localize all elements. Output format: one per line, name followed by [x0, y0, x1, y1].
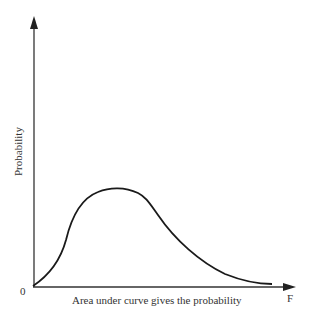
origin-label: 0	[20, 285, 26, 297]
x-axis-arrow-icon	[283, 283, 296, 291]
caption: Area under curve gives the probability	[72, 294, 242, 306]
x-axis-label: F	[287, 292, 293, 304]
probability-curve	[33, 188, 272, 286]
y-axis-arrow-icon	[30, 16, 38, 29]
y-axis-label: Probability	[12, 127, 24, 176]
diagram-canvas	[0, 0, 310, 320]
